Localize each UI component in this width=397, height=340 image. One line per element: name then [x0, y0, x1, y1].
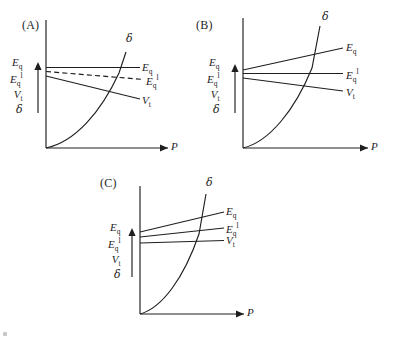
panel-b-label-delta: δ [322, 10, 329, 23]
panel-b-stack-arrow-head [231, 64, 238, 72]
panel-a-curve-eql [46, 72, 144, 80]
panel-b-label-eq: Eq [346, 41, 356, 56]
panel-a-curve-vt [46, 76, 140, 99]
panel-b-label-vt: Vt [346, 86, 355, 101]
panel-b-label-p: P [371, 140, 378, 152]
panel-b-curve-eq [243, 48, 343, 70]
panel-a-curve-delta [46, 52, 126, 148]
panel-a-label-p: P [171, 140, 178, 152]
panel-a-stack-arrow-head [34, 62, 41, 70]
panel-b-label-eql: Eql [346, 67, 359, 84]
three-panel-figure: (A) Eq Eql Vt δ δ Eq Eql [0, 0, 397, 340]
scan-artifact [3, 332, 7, 336]
panel-c-stack-arrow-head [128, 228, 135, 236]
panel-a-plot [0, 0, 197, 170]
panel-c-label-vt: Vt [226, 234, 235, 249]
panel-b: (B) Eq Eql Vt δ δ Eq Eql Vt P [196, 0, 397, 170]
panel-a: (A) Eq Eql Vt δ δ Eq Eql [0, 0, 197, 170]
panel-c-x-axis-arrowhead [236, 311, 244, 318]
panel-a-label-eql: Eql [146, 73, 159, 90]
panel-c-label-delta: δ [206, 176, 213, 189]
panel-c-label-eq: Eq [226, 205, 236, 220]
panel-c-curve-vt [140, 241, 224, 244]
panel-b-x-axis-arrowhead [360, 145, 368, 152]
panel-b-plot [196, 0, 397, 170]
panel-a-label-vt: Vt [142, 94, 151, 109]
panel-b-curve-vt [243, 78, 343, 91]
panel-c-plot [92, 166, 332, 340]
panel-c: (C) Eq Eql Vt δ δ Eq Eql Vt P [92, 166, 332, 340]
panel-a-x-axis-arrowhead [160, 145, 168, 152]
panel-a-label-delta: δ [126, 32, 133, 45]
panel-c-curve-delta [140, 194, 206, 314]
panel-c-label-p: P [247, 306, 254, 318]
